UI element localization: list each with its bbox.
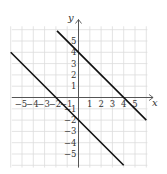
x-axis-label: x — [152, 97, 158, 108]
x-tick-label: 3 — [110, 99, 115, 109]
x-tick-label: 1 — [87, 99, 92, 109]
y-tick-label: −3 — [64, 126, 77, 136]
y-tick-label: 3 — [71, 59, 76, 69]
y-tick-label: −4 — [64, 138, 77, 148]
y-tick-label: −5 — [64, 149, 77, 159]
grid-lines — [11, 26, 148, 167]
y-tick-label: 1 — [71, 81, 76, 91]
y-tick-label: 2 — [71, 70, 76, 80]
x-tick-label: 2 — [98, 99, 103, 109]
y-axis-label: y — [67, 12, 74, 23]
coordinate-plane: −5−4−3−2−112345−5−4−3−2−112345 x y — [0, 0, 167, 174]
y-tick-label: 5 — [71, 36, 76, 46]
